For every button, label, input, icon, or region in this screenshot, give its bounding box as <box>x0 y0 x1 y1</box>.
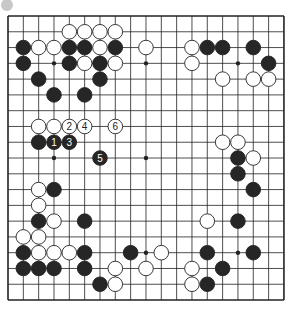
white-stone <box>31 245 46 260</box>
white-stone <box>215 72 230 87</box>
white-stone <box>246 151 261 166</box>
white-stone <box>47 40 62 55</box>
white-stone <box>93 24 108 39</box>
black-stone <box>77 88 92 103</box>
white-stone <box>200 214 215 229</box>
white-stone <box>246 72 261 87</box>
black-stone <box>62 56 77 71</box>
white-stone <box>139 261 154 276</box>
move-number-label: 3 <box>67 137 73 148</box>
black-stone <box>77 40 92 55</box>
move-number-label: 5 <box>97 153 103 164</box>
black-stone <box>231 167 246 182</box>
black-stone <box>93 56 108 71</box>
white-stone <box>185 40 200 55</box>
black-stone <box>246 40 261 55</box>
white-stone <box>108 24 123 39</box>
black-stone <box>16 56 31 71</box>
white-stone <box>185 56 200 71</box>
white-stone <box>47 214 62 229</box>
black-stone <box>246 245 261 260</box>
move-number-label: 1 <box>51 137 57 148</box>
black-stone <box>261 56 276 71</box>
white-stone <box>154 245 169 260</box>
black-stone <box>62 40 77 55</box>
black-stone <box>200 245 215 260</box>
white-stone <box>261 72 276 87</box>
black-stone <box>77 245 92 260</box>
black-stone <box>47 182 62 197</box>
black-stone <box>47 88 62 103</box>
black-stone <box>47 261 62 276</box>
black-stone <box>93 277 108 292</box>
black-stone <box>31 135 46 150</box>
go-board: 123456 <box>0 0 292 310</box>
white-stone <box>108 56 123 71</box>
white-stone <box>31 198 46 213</box>
star-point <box>236 61 240 65</box>
black-stone <box>77 261 92 276</box>
white-stone <box>62 245 77 260</box>
star-point <box>52 156 56 160</box>
white-stone <box>47 245 62 260</box>
white-stone <box>231 135 246 150</box>
black-stone <box>108 40 123 55</box>
black-stone <box>16 40 31 55</box>
black-stone <box>215 40 230 55</box>
black-stone <box>31 214 46 229</box>
black-stone <box>246 182 261 197</box>
black-stone <box>231 214 246 229</box>
white-stone <box>77 56 92 71</box>
black-stone <box>16 261 31 276</box>
black-stone <box>31 72 46 87</box>
star-point <box>236 251 240 255</box>
star-point <box>144 61 148 65</box>
star-point <box>52 61 56 65</box>
move-number-label: 2 <box>67 121 73 132</box>
white-stone <box>16 230 31 245</box>
white-stone <box>93 40 108 55</box>
black-stone <box>31 261 46 276</box>
white-stone <box>31 182 46 197</box>
white-stone <box>108 261 123 276</box>
star-point <box>144 251 148 255</box>
white-stone <box>77 24 92 39</box>
black-stone <box>200 40 215 55</box>
black-stone <box>77 214 92 229</box>
white-stone <box>185 261 200 276</box>
white-stone <box>62 24 77 39</box>
white-stone <box>185 277 200 292</box>
black-stone <box>231 151 246 166</box>
move-number-label: 6 <box>113 121 119 132</box>
black-stone <box>215 261 230 276</box>
white-stone <box>31 119 46 134</box>
black-stone <box>16 245 31 260</box>
black-stone <box>123 245 138 260</box>
black-stone <box>93 72 108 87</box>
move-number-label: 4 <box>82 121 88 132</box>
white-stone <box>139 40 154 55</box>
black-stone <box>200 277 215 292</box>
white-stone <box>108 277 123 292</box>
white-stone <box>31 230 46 245</box>
star-point <box>144 156 148 160</box>
white-stone <box>47 119 62 134</box>
white-stone <box>215 135 230 150</box>
white-stone <box>31 40 46 55</box>
